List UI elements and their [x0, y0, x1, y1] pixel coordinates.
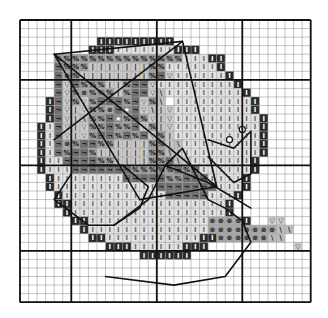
stitch-symbol: | [126, 157, 128, 165]
stitch-symbol: ¬ [81, 166, 87, 174]
stitch-symbol: I [49, 98, 52, 106]
stitch-symbol: ▽ [150, 89, 156, 97]
stitch-symbol: I [151, 243, 154, 251]
stitch-symbol: | [100, 63, 102, 71]
stitch-symbol: I [49, 166, 52, 174]
stitch-symbol: I [211, 81, 214, 89]
stitch-symbol: I [237, 106, 240, 114]
stitch-symbol: ¬ [141, 81, 147, 89]
stitch-symbol: I [57, 183, 60, 191]
stitch-symbol: I [203, 149, 206, 157]
stitch-symbol: ¬ [73, 157, 79, 165]
stitch-symbol: % [89, 98, 96, 106]
stitch-symbol: I [117, 175, 120, 183]
stitch-symbol: ¬ [56, 140, 62, 148]
stitch-symbol: I [126, 243, 129, 251]
stitch-symbol: | [100, 149, 102, 157]
stitch-symbol: % [72, 140, 79, 148]
stitch-symbol: I [83, 226, 86, 234]
stitch-symbol: I [262, 115, 265, 123]
stitch-symbol: ▽ [167, 115, 173, 123]
stitch-symbol: I [220, 123, 223, 131]
stitch-symbol: ▽ [295, 243, 301, 251]
stitch-symbol: % [72, 98, 79, 106]
stitch-symbol: I [177, 98, 180, 106]
stitch-symbol: I [74, 183, 77, 191]
stitch-symbol: % [166, 175, 173, 183]
stitch-symbol: I [40, 149, 43, 157]
stitch-symbol: % [132, 55, 139, 63]
stitch-symbol: I [245, 115, 248, 123]
stitch-symbol: I [211, 175, 214, 183]
stitch-symbol: ▽ [82, 132, 88, 140]
stitch-symbol: I [83, 183, 86, 191]
stitch-symbol: I [177, 217, 180, 225]
stitch-symbol: ▽ [64, 89, 70, 97]
stitch-symbol: I [220, 106, 223, 114]
stitch-symbol: I [160, 243, 163, 251]
stitch-symbol: I [237, 183, 240, 191]
stitch-symbol: I [168, 209, 171, 217]
stitch-symbol: I [203, 55, 206, 63]
stitch-symbol: ¬ [141, 89, 147, 97]
stitch-symbol: I [203, 81, 206, 89]
stitch-symbol: ¬ [56, 72, 62, 80]
stitch-symbol: I [143, 46, 146, 54]
stitch-symbol: I [228, 183, 231, 191]
stitch-symbol: ▽ [150, 81, 156, 89]
stitch-symbol: I [254, 132, 257, 140]
stitch-symbol: % [81, 55, 88, 63]
stitch-symbol: ¬ [133, 123, 139, 131]
stitch-symbol: | [134, 149, 136, 157]
stitch-symbol: I [211, 115, 214, 123]
stitch-symbol: I [100, 192, 103, 200]
stitch-symbol: I [177, 89, 180, 97]
stitch-symbol: | [91, 72, 93, 80]
stitch-symbol: I [160, 217, 163, 225]
stitch-symbol: ▽ [167, 72, 173, 80]
stitch-symbol: I [228, 200, 231, 208]
stitch-symbol: I [40, 132, 43, 140]
stitch-symbol: ¬ [107, 115, 113, 123]
stitch-symbol: ★ [115, 115, 121, 123]
stitch-symbol: I [151, 217, 154, 225]
stitch-symbol: I [245, 140, 248, 148]
stitch-symbol: I [211, 89, 214, 97]
stitch-symbol: ¬ [90, 140, 96, 148]
stitch-symbol: I [194, 157, 197, 165]
stitch-symbol: I [91, 192, 94, 200]
stitch-symbol: | [134, 157, 136, 165]
stitch-symbol: | [143, 149, 145, 157]
stitch-symbol: I [177, 200, 180, 208]
stitch-symbol: I [203, 243, 206, 251]
stitch-symbol: ¬ [56, 81, 62, 89]
stitch-symbol: ¬ [133, 98, 139, 106]
stitch-symbol: I [220, 192, 223, 200]
stitch-symbol: I [40, 157, 43, 165]
stitch-symbol: ¬ [90, 166, 96, 174]
stitch-symbol: ⊛ [210, 217, 216, 225]
stitch-symbol: I [126, 226, 129, 234]
stitch-symbol: ¬ [73, 166, 79, 174]
stitch-symbol: I [100, 38, 103, 46]
stitch-symbol: I [228, 72, 231, 80]
stitch-symbol: ¬ [56, 106, 62, 114]
stitch-symbol: % [158, 157, 165, 165]
stitch-symbol: I [194, 55, 197, 63]
stitch-symbol: ⊛ [218, 217, 224, 225]
stitch-symbol: I [211, 209, 214, 217]
stitch-symbol: I [134, 243, 137, 251]
stitch-symbol: % [64, 55, 71, 63]
stitch-symbol: ⊛ [210, 226, 216, 234]
stitch-symbol: I [203, 98, 206, 106]
stitch-symbol: I [117, 234, 120, 242]
stitch-symbol: | [143, 140, 145, 148]
stitch-symbol: I [83, 192, 86, 200]
stitch-symbol: % [123, 123, 130, 131]
stitch-symbol: I [194, 46, 197, 54]
stitch-symbol: ▽ [167, 123, 173, 131]
stitch-symbol: I [228, 157, 231, 165]
stitch-symbol: % [141, 115, 148, 123]
stitch-symbol: I [57, 166, 60, 174]
stitch-symbol: I [40, 166, 43, 174]
